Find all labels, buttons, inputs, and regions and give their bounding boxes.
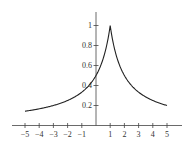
- x-tick-label: 5: [165, 130, 169, 139]
- axis-ticks: −5−4−3−2−1123450.20.40.60.81: [21, 21, 169, 138]
- x-tick-label: −1: [78, 130, 87, 139]
- y-tick-label: 0.4: [82, 81, 92, 90]
- x-tick-label: 3: [137, 130, 141, 139]
- x-tick-label: −5: [21, 130, 30, 139]
- x-tick-label: −3: [49, 130, 58, 139]
- y-tick-label: 0.8: [82, 41, 92, 50]
- axes: [12, 12, 182, 126]
- x-tick-label: 4: [151, 130, 155, 139]
- x-tick-label: −2: [63, 130, 72, 139]
- x-tick-label: 1: [108, 130, 112, 139]
- x-tick-label: 2: [122, 130, 126, 139]
- y-tick-label: 0.2: [82, 101, 92, 110]
- y-tick-label: 0.6: [82, 61, 92, 70]
- line-chart: −5−4−3−2−1123450.20.40.60.81: [0, 0, 186, 146]
- y-tick-label: 1: [88, 21, 92, 30]
- x-tick-label: −4: [35, 130, 44, 139]
